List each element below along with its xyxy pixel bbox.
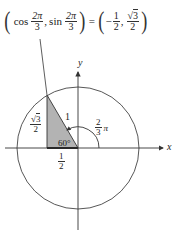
y-axis-label: y (78, 58, 82, 68)
radicand: 3 (36, 113, 41, 124)
base-label-denominator: 2 (59, 162, 64, 171)
arc-angle-fraction: 2 3 (95, 118, 102, 137)
arc-angle-denominator: 3 (96, 128, 101, 137)
x-axis-label: x (167, 142, 171, 152)
height-label: √3 2 (30, 115, 41, 134)
arc-angle-label: 2 3 π (95, 118, 108, 137)
pi-symbol: π (104, 123, 109, 133)
unit-circle-diagram (0, 0, 174, 236)
hypotenuse-label: 1 (65, 112, 70, 122)
base-label: 1 2 (58, 152, 65, 171)
leader-line (40, 39, 47, 95)
height-label-denominator: 2 (33, 125, 38, 134)
angle-60-label: 60° (58, 138, 71, 148)
